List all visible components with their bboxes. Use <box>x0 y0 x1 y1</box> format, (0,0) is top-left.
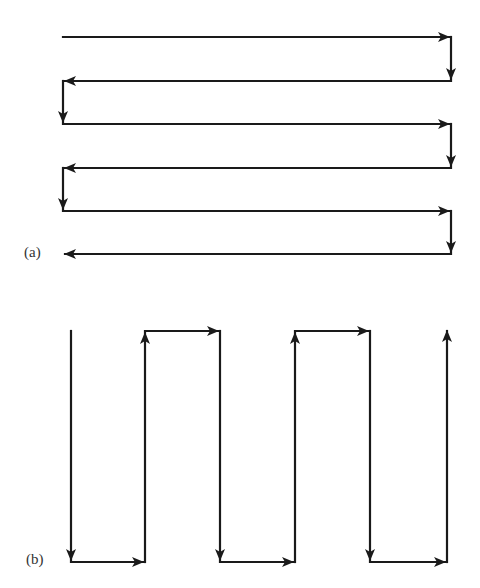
scan-path-diagram <box>0 0 480 588</box>
panel-b-label: (b) <box>26 551 44 568</box>
panel-b-vertical-scan <box>71 331 447 562</box>
panel-a-horizontal-scan <box>63 37 451 254</box>
panel-a-label: (a) <box>24 244 41 261</box>
